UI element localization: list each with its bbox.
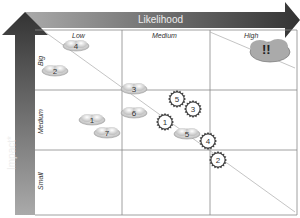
risk-cloud-number: 2 <box>53 67 58 76</box>
impact-axis-title: Impact* <box>6 136 17 170</box>
risk-cloud-item: 6 <box>121 107 147 118</box>
column-label-high: High <box>244 32 258 39</box>
risk-gear-item: 3 <box>184 100 202 118</box>
risk-cloud-number: 6 <box>132 109 137 118</box>
risk-gear-item: 5 <box>168 90 186 108</box>
risk-cloud-number: 3 <box>132 85 137 94</box>
risk-cloud-item: 3 <box>121 83 147 94</box>
risk-cloud-item: 2 <box>42 65 68 76</box>
risk-cloud-item: 1 <box>79 114 105 125</box>
risk-gear-item: 1 <box>156 113 174 131</box>
risk-cloud-number: 4 <box>74 42 79 51</box>
risk-gear-item: 2 <box>209 151 227 169</box>
risk-cloud-item: 4 <box>63 40 89 51</box>
risk-cloud-number: 1 <box>90 116 95 125</box>
column-label-low: Low <box>72 32 85 39</box>
row-label-medium: Medium <box>37 109 44 134</box>
risk-gear-number: 5 <box>175 95 180 104</box>
risk-cloud-number: 7 <box>105 129 110 138</box>
risk-gear-item: 4 <box>199 132 217 150</box>
risk-gear-number: 1 <box>163 118 168 127</box>
high-risk-cloud-label: !! <box>262 42 271 57</box>
row-label-big: Big <box>37 56 44 66</box>
risk-gear-number: 3 <box>191 105 196 114</box>
risk-gear-number: 4 <box>206 137 211 146</box>
column-label-medium: Medium <box>152 32 177 39</box>
risk-gear-number: 2 <box>216 156 221 165</box>
likelihood-axis-title: Likelihood <box>138 14 183 25</box>
row-label-small: Small <box>37 172 44 190</box>
risk-cloud-item: 7 <box>94 127 120 138</box>
risk-cloud-number: 5 <box>185 130 190 139</box>
risk-cloud-item: 5 <box>174 128 200 139</box>
